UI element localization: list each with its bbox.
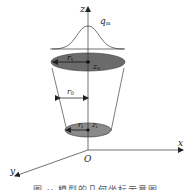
top-radius-label: rs	[67, 54, 73, 62]
diagram-canvas	[0, 0, 191, 190]
y-axis	[15, 150, 88, 176]
middle-radius-subscript: 0	[71, 90, 74, 96]
cone-left-wall	[52, 68, 67, 131]
heat-flux-subscript: m	[106, 20, 111, 26]
heat-flux-label: qm	[100, 17, 111, 26]
y-axis-label: y	[10, 167, 15, 176]
bottom-radius-label: ri	[78, 122, 83, 129]
top-height-subscript: s	[97, 65, 100, 71]
top-radius-subscript: s	[71, 56, 74, 62]
bottom-height-subscript: i	[96, 123, 98, 129]
z-axis-label: z	[80, 4, 85, 14]
middle-radius-label: r0	[67, 88, 74, 96]
bottom-height-label: zi	[92, 122, 97, 129]
x-axis-label: x	[178, 139, 183, 148]
bottom-radius-subscript: i	[81, 123, 83, 129]
figure-caption: 图 ·· 模型的几何坐标示意图	[0, 183, 191, 190]
cone-right-wall	[111, 68, 124, 131]
origin-label: O	[84, 155, 91, 164]
top-height-label: zs	[93, 63, 100, 71]
